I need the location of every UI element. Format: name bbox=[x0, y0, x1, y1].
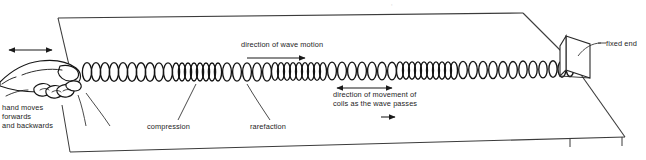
coil-spring bbox=[82, 61, 578, 82]
label-wave-motion: direction of wave motion bbox=[241, 40, 323, 49]
leader-lines bbox=[78, 43, 606, 126]
label-coil-movement: direction of movement of coils as the wa… bbox=[333, 90, 417, 108]
diagram-canvas bbox=[0, 0, 646, 160]
table-surface bbox=[58, 13, 625, 152]
label-compression: compression bbox=[147, 122, 190, 131]
label-hand-motion: hand moves forwards and backwards bbox=[2, 103, 53, 131]
label-fixed-end: fixed end bbox=[606, 39, 637, 48]
label-rarefaction: rarefaction bbox=[250, 122, 286, 131]
hand-gripping-spring bbox=[0, 60, 81, 98]
fixed-end-post bbox=[560, 36, 590, 78]
wave-diagram-figure: , bbox=[0, 0, 646, 160]
